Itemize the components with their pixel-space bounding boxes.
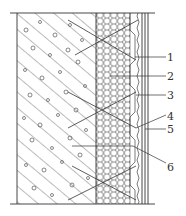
callout-labels: 1 2 3 4 5 6 [167,51,174,174]
callout-1: 1 [167,51,174,64]
mortar-wavy-layer [130,13,139,204]
callout-5: 5 [167,123,174,136]
callout-3: 3 [167,89,174,102]
wall-section-diagram: 1 2 3 4 5 6 [0,0,186,216]
insulation-honeycomb-layer [96,13,130,204]
callout-6: 6 [167,161,174,174]
callout-2: 2 [167,70,174,83]
concrete-wall-layer [17,13,96,204]
callout-4: 4 [167,110,174,123]
